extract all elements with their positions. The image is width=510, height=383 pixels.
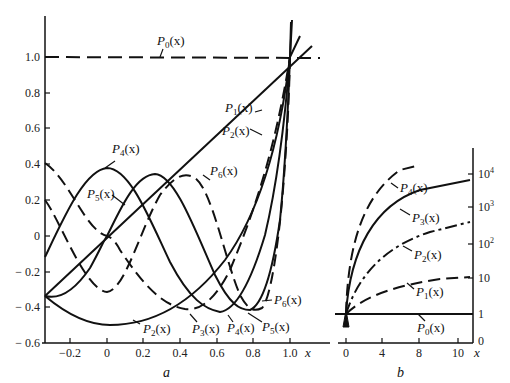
legendre-polynomials-figure: 1.0 0.8 0.6 0.4 0.2 0 − 0.2 − 0.4 − 0.6 …: [0, 0, 510, 383]
svg-text:0: 0: [478, 334, 484, 348]
svg-text:0.2: 0.2: [136, 346, 151, 360]
b-label-p3: P3(x): [411, 210, 440, 227]
svg-text:0.4: 0.4: [25, 157, 40, 171]
svg-text:− 0.2: − 0.2: [15, 265, 40, 279]
svg-text:0.4: 0.4: [173, 346, 188, 360]
a-x-axis-label: x: [304, 345, 311, 360]
b-label-p2: P2(x): [413, 247, 442, 264]
label-p6-bottom: P6(x): [273, 292, 302, 309]
a-y-tick-labels: 1.0 0.8 0.6 0.4 0.2 0 − 0.2 − 0.4 − 0.6: [15, 50, 40, 350]
svg-text:0.6: 0.6: [210, 346, 225, 360]
panel-b-label: b: [397, 365, 404, 380]
svg-text:1.0: 1.0: [25, 50, 40, 64]
svg-text:0.8: 0.8: [246, 346, 261, 360]
b-label-p0: P0(x): [416, 320, 445, 337]
svg-text:4: 4: [379, 346, 385, 360]
panel-b: [335, 148, 473, 343]
svg-text:10: 10: [478, 271, 490, 285]
svg-text:8: 8: [416, 346, 422, 360]
label-p2: P2(x): [221, 123, 250, 140]
label-p5: P5(x): [86, 186, 115, 203]
a-curve-p0: [45, 57, 320, 58]
panel-a-label: a: [163, 365, 170, 380]
a-x-tick-labels: −0.2 0 0.2 0.4 0.6 0.8 1.0: [59, 346, 297, 360]
svg-text:0.6: 0.6: [25, 121, 40, 135]
a-curve-p1: [45, 46, 312, 296]
label-p6: P6(x): [209, 163, 238, 180]
svg-text:104: 104: [478, 166, 494, 181]
b-y-tick-labels: 104 103 102 10 1 0: [478, 166, 494, 348]
label-p5-bottom: P5(x): [261, 319, 290, 336]
b-curve-p3: [346, 180, 470, 314]
svg-text:103: 103: [478, 199, 494, 214]
b-curve-p1: [346, 277, 470, 314]
svg-text:0.8: 0.8: [25, 86, 40, 100]
svg-text:0: 0: [34, 229, 40, 243]
svg-text:−0.2: −0.2: [59, 346, 81, 360]
svg-text:1: 1: [478, 307, 484, 321]
svg-text:1.0: 1.0: [283, 346, 298, 360]
svg-text:0.2: 0.2: [25, 193, 40, 207]
b-label-p4: P4(x): [399, 180, 428, 197]
svg-text:0: 0: [104, 346, 110, 360]
svg-text:102: 102: [478, 236, 494, 251]
b-label-p1: P1(x): [415, 284, 444, 301]
svg-text:10: 10: [452, 346, 464, 360]
label-p4: P4(x): [111, 141, 140, 158]
label-p1: P1(x): [224, 100, 253, 117]
label-p3: P3(x): [191, 321, 220, 338]
svg-text:− 0.6: − 0.6: [15, 336, 40, 350]
label-p2-bottom: P2(x): [142, 321, 171, 338]
svg-text:0: 0: [343, 346, 349, 360]
svg-text:− 0.4: − 0.4: [15, 300, 40, 314]
label-p0: P0(x): [156, 33, 185, 50]
a-curve-p6: [45, 57, 290, 310]
label-p4-bottom: P4(x): [226, 320, 255, 337]
b-x-tick-labels: 0 4 8 10: [343, 346, 464, 360]
